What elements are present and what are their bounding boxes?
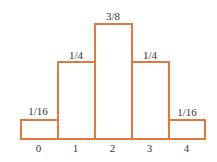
bar-0 bbox=[20, 119, 59, 140]
x-tick-1: 1 bbox=[57, 143, 94, 154]
bar-2 bbox=[94, 23, 133, 140]
x-tick-2: 2 bbox=[94, 143, 131, 154]
value-label-0: 1/16 bbox=[18, 106, 58, 117]
x-tick-4: 4 bbox=[168, 143, 205, 154]
x-tick-3: 3 bbox=[131, 143, 168, 154]
value-label-3: 1/4 bbox=[130, 50, 170, 61]
x-tick-0: 0 bbox=[20, 143, 57, 154]
value-label-1: 1/4 bbox=[56, 50, 96, 61]
bar-4 bbox=[168, 119, 206, 140]
bar-3 bbox=[131, 61, 170, 140]
value-label-2: 3/8 bbox=[93, 11, 133, 22]
value-label-4: 1/16 bbox=[167, 107, 207, 118]
bar-1 bbox=[57, 61, 96, 140]
